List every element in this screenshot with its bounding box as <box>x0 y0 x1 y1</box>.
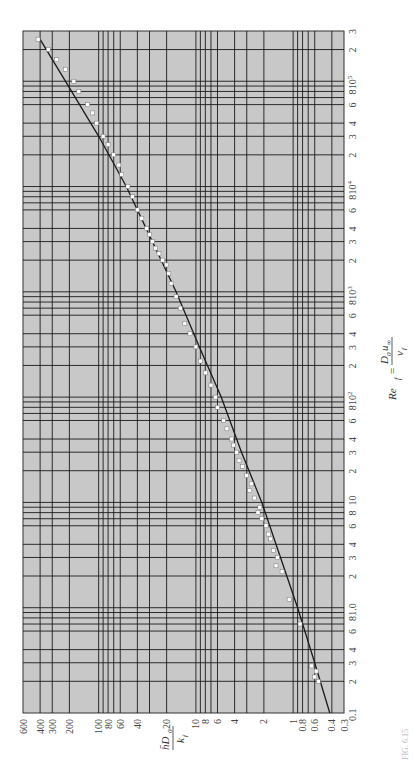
re-tick-label: 4 <box>347 332 358 337</box>
data-point <box>316 679 320 683</box>
re-tick-label: 4 <box>347 437 358 442</box>
data-point <box>77 89 81 93</box>
data-point <box>249 482 253 486</box>
nu-label-numer: h̄D <box>159 737 171 751</box>
re-tick-label: 2 <box>347 574 358 579</box>
re-tick-label: 3 <box>347 661 358 666</box>
data-point <box>198 359 202 363</box>
re-axis-ticks: 0.1234681.023468102346810223468103234681… <box>346 29 358 721</box>
data-point <box>161 258 165 262</box>
re-tick-label: 3 <box>347 555 358 560</box>
data-point <box>130 195 134 199</box>
data-point <box>112 153 116 157</box>
data-point <box>194 345 198 349</box>
nu-tick-label: 2 <box>258 719 269 724</box>
nu-label-denom-sub: f <box>181 734 189 737</box>
data-point <box>271 548 275 552</box>
re-axis-label: Re f = D 0 u ∞ v f <box>378 337 408 401</box>
data-point <box>298 622 302 626</box>
data-point <box>117 163 121 167</box>
data-point <box>148 233 152 237</box>
re-tick-label: 103 <box>346 286 358 300</box>
data-point <box>126 185 130 189</box>
data-point <box>203 371 207 375</box>
nu-tick-label: 600 <box>18 719 29 734</box>
re-label-numer: D <box>378 356 390 365</box>
data-point <box>314 669 318 673</box>
data-point <box>72 79 76 83</box>
re-label-sub: f <box>393 376 402 380</box>
data-point <box>183 322 187 326</box>
data-point <box>55 58 59 62</box>
data-point <box>222 418 226 422</box>
re-label-denom: v <box>393 351 405 356</box>
nu-tick-label: 60 <box>115 719 126 729</box>
re-tick-label: 8 <box>347 511 358 516</box>
nu-tick-label: 6 <box>212 719 223 724</box>
nu-tick-label: 20 <box>161 719 172 729</box>
re-tick-label: 1.0 <box>347 603 358 616</box>
re-tick-label: 4 <box>347 226 358 231</box>
re-tick-label: 3 <box>347 240 358 245</box>
re-tick-label: 10 <box>347 495 358 505</box>
data-point <box>209 383 213 387</box>
nu-tick-label: 80 <box>103 719 114 729</box>
re-tick-label: 102 <box>346 391 358 405</box>
data-point <box>46 48 50 52</box>
nu-tick-label: 100 <box>93 719 104 734</box>
re-label-denom-sub: f <box>400 347 408 350</box>
data-point <box>91 111 95 115</box>
nu-tick-label: 0.6 <box>309 719 320 732</box>
data-point <box>260 517 264 521</box>
data-point <box>287 597 291 601</box>
re-tick-label: 104 <box>346 181 358 195</box>
re-tick-label: 6 <box>347 629 358 634</box>
re-tick-label: 2 <box>347 363 358 368</box>
data-point <box>225 427 229 431</box>
nu-tick-label: 0.8 <box>297 719 308 732</box>
nu-tick-label: 300 <box>47 719 58 734</box>
data-point <box>252 496 256 500</box>
re-tick-label: 6 <box>347 103 358 108</box>
nu-tick-label: 0.3 <box>339 719 350 732</box>
re-tick-label: 3 <box>347 134 358 139</box>
data-point <box>264 524 268 528</box>
nu-tick-label: 400 <box>35 719 46 734</box>
data-point <box>258 505 262 509</box>
data-point <box>188 332 192 336</box>
data-point <box>120 173 124 177</box>
re-tick-label: 6 <box>347 524 358 529</box>
data-point <box>95 121 99 125</box>
re-tick-label: 2 <box>347 153 358 158</box>
data-point <box>309 664 313 668</box>
data-point <box>230 437 234 441</box>
nu-tick-label: 200 <box>64 719 75 734</box>
re-tick-label: 4 <box>347 542 358 547</box>
re-tick-label: 2 <box>347 258 358 263</box>
data-point <box>241 464 245 468</box>
data-point <box>237 459 241 463</box>
data-point <box>313 675 317 679</box>
nu-tick-label: 40 <box>132 719 143 729</box>
data-point <box>86 103 90 107</box>
re-tick-label: 2 <box>347 469 358 474</box>
data-point <box>36 37 40 41</box>
nu-tick-label: 8 <box>200 719 211 724</box>
data-point <box>245 474 249 478</box>
data-point <box>169 281 173 285</box>
data-point <box>145 226 149 230</box>
nu-tick-label: 10 <box>190 719 201 729</box>
re-tick-label: 3 <box>347 345 358 350</box>
data-point <box>157 252 161 256</box>
plot-background <box>23 31 344 713</box>
re-tick-label: 3 <box>347 450 358 455</box>
data-point <box>140 216 144 220</box>
re-tick-label: 6 <box>347 208 358 213</box>
nu-tick-label: 4 <box>229 719 240 724</box>
re-tick-label: 3 <box>347 29 358 34</box>
re-label: Re <box>386 388 398 401</box>
data-point <box>174 295 178 299</box>
data-point <box>235 450 239 454</box>
data-point <box>165 263 169 267</box>
re-label-eq: = <box>386 368 398 374</box>
